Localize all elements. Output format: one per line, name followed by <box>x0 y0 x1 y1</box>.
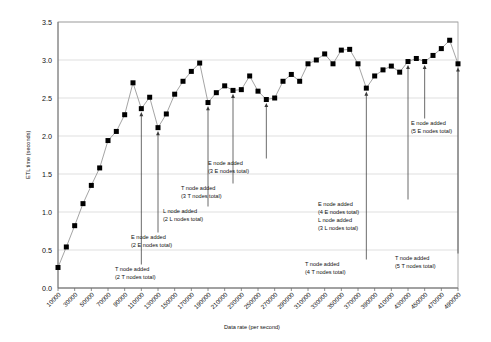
data-point-marker <box>272 96 277 101</box>
data-point-marker <box>264 97 269 102</box>
data-point-marker <box>422 59 427 64</box>
data-point-marker <box>356 61 361 66</box>
annotation-label-t-node-5: (5 T nodes total) <box>395 263 436 269</box>
data-point-marker <box>214 90 219 95</box>
data-point-marker <box>72 223 77 228</box>
y-axis-tick-label: 3.5 <box>42 18 52 27</box>
data-point-marker <box>256 89 261 94</box>
data-point-marker <box>189 69 194 74</box>
chart-canvas: 0.00.51.01.52.02.53.03.51000030000500007… <box>0 0 491 342</box>
data-point-marker <box>89 183 94 188</box>
y-axis-tick-label: 0.0 <box>42 284 52 293</box>
data-point-marker <box>172 92 177 97</box>
annotation-label-t-node-2: (2 T nodes total) <box>115 274 156 280</box>
annotation-label-t-node-3: (3 T nodes total) <box>181 193 222 199</box>
data-point-marker <box>389 64 394 69</box>
data-point-marker <box>431 53 436 58</box>
data-point-marker <box>97 165 102 170</box>
data-point-marker <box>139 106 144 111</box>
data-point-marker <box>247 73 252 78</box>
y-axis-tick-label: 3.0 <box>42 56 52 65</box>
data-point-marker <box>372 73 377 78</box>
data-point-marker <box>197 61 202 66</box>
annotation-label-e-node-3: (3 E nodes total) <box>208 168 249 174</box>
annotation-label-e-node-3: E node added <box>208 160 243 166</box>
annotation-label-e-node-4-l-node-3: E node added <box>318 201 353 207</box>
x-axis-title: Data rate (per second) <box>224 324 280 330</box>
data-point-marker <box>397 70 402 75</box>
data-point-marker <box>339 48 344 53</box>
data-point-marker <box>322 51 327 56</box>
data-point-marker <box>439 46 444 51</box>
data-point-marker <box>306 61 311 66</box>
annotation-label-e-node-5: (5 E nodes total) <box>411 128 452 134</box>
y-axis-tick-label: 0.5 <box>42 246 52 255</box>
annotation-label-t-node-5: T node added <box>395 255 429 261</box>
y-axis-tick-label: 2.0 <box>42 132 52 141</box>
data-point-marker <box>81 201 86 206</box>
data-point-marker <box>347 47 352 52</box>
annotation-label-t-node-4: (4 T nodes total) <box>305 269 346 275</box>
y-axis-title: ETL time (seconds) <box>25 131 31 179</box>
annotation-label-t-node-2: T node added <box>115 266 149 272</box>
annotation-label-l-node-2: (2 L nodes total) <box>163 216 203 222</box>
annotation-label-e-node-5: E node added <box>411 120 446 126</box>
data-point-marker <box>122 112 127 117</box>
data-point-marker <box>114 129 119 134</box>
data-point-marker <box>297 79 302 84</box>
annotation-label-e-node-2: (2 E nodes total) <box>131 242 172 248</box>
data-point-marker <box>106 138 111 143</box>
annotation-label-e-node-4-l-node-3: (3 L nodes total) <box>318 225 358 231</box>
data-point-marker <box>156 125 161 130</box>
data-point-marker <box>281 79 286 84</box>
y-axis-tick-label: 1.5 <box>42 170 52 179</box>
annotation-label-e-node-4-l-node-3: (4 E nodes total) <box>318 209 359 215</box>
data-point-marker <box>231 88 236 93</box>
data-point-marker <box>289 72 294 77</box>
annotation-label-t-node-3: T node added <box>181 185 215 191</box>
data-point-marker <box>239 87 244 92</box>
data-point-marker <box>406 59 411 64</box>
data-point-marker <box>456 61 461 66</box>
annotation-label-e-node-4-l-node-3: L node added <box>318 217 352 223</box>
annotation-label-e-node-2: E node added <box>131 234 166 240</box>
data-point-marker <box>381 67 386 72</box>
data-point-marker <box>64 244 69 249</box>
data-point-marker <box>222 83 227 88</box>
etl-performance-chart: 0.00.51.01.52.02.53.03.51000030000500007… <box>0 0 491 342</box>
data-point-marker <box>447 38 452 43</box>
y-axis-tick-label: 1.0 <box>42 208 52 217</box>
y-axis-tick-label: 2.5 <box>42 94 52 103</box>
data-point-marker <box>181 79 186 84</box>
data-point-marker <box>331 61 336 66</box>
data-point-marker <box>164 111 169 116</box>
annotation-label-l-node-2: L node added <box>163 208 197 214</box>
annotation-label-t-node-4: T node added <box>305 261 339 267</box>
data-point-marker <box>206 100 211 105</box>
data-point-marker <box>364 86 369 91</box>
data-point-marker <box>314 58 319 63</box>
data-point-marker <box>414 56 419 61</box>
data-point-marker <box>147 95 152 100</box>
data-point-marker <box>56 265 61 270</box>
data-point-marker <box>131 80 136 85</box>
